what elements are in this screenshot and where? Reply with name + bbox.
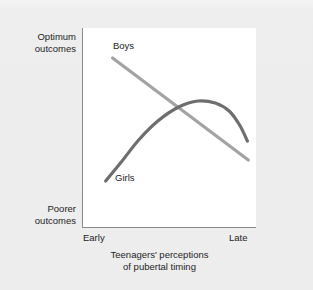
- y-axis-top-label-line1: Optimum: [37, 31, 76, 42]
- y-axis-top-label-line2: outcomes: [35, 43, 76, 54]
- figure-container: Optimum outcomes Poorer outcomes Boys Gi…: [0, 0, 313, 290]
- series-label-boys: Boys: [113, 40, 134, 51]
- y-axis-bottom-label-line1: Poorer: [47, 203, 76, 214]
- y-axis-bottom-label-line2: outcomes: [35, 215, 76, 226]
- x-axis-tick-late: Late: [229, 232, 248, 243]
- series-label-girls: Girls: [115, 172, 135, 183]
- plot-area: [82, 28, 256, 228]
- chart-lines: [83, 28, 257, 228]
- y-axis-top-label: Optimum outcomes: [6, 31, 76, 54]
- x-axis-title-line1: Teenagers' perceptions: [111, 249, 209, 260]
- x-axis-title-line2: of pubertal timing: [123, 261, 196, 272]
- y-axis-bottom-label: Poorer outcomes: [6, 203, 76, 226]
- x-axis-title: Teenagers' perceptions of pubertal timin…: [52, 249, 267, 272]
- series-line-girls: [106, 101, 248, 181]
- x-axis-tick-early: Early: [83, 232, 105, 243]
